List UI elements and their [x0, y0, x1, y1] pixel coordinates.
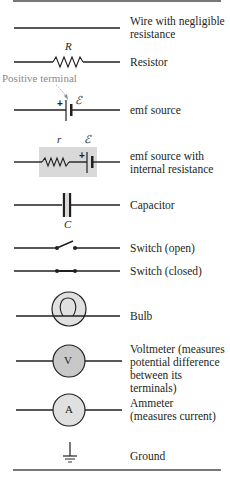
- capacitor-label: Capacitor: [130, 199, 175, 212]
- bottom-rule: [13, 469, 221, 471]
- switch-open-label: Switch (open): [130, 242, 195, 255]
- bulb-symbol: [16, 292, 120, 326]
- internal-resistance-variable: r: [57, 133, 61, 145]
- ground-label: Ground: [130, 450, 165, 463]
- emf-internal-label-line-2: internal resistance: [130, 163, 213, 176]
- emf-internal-label: emf source with internal resistance: [130, 150, 213, 176]
- switch-closed-label: Switch (closed): [130, 265, 202, 278]
- ammeter-label-line-1: Ammeter: [130, 397, 216, 410]
- emf-variable: ℰ: [75, 94, 82, 107]
- resistor-label: Resistor: [130, 56, 168, 69]
- emf-source-label: emf source: [130, 104, 181, 117]
- ground-symbol: [63, 442, 77, 462]
- wire-label-line-1: Wire with negligible: [130, 15, 225, 28]
- emf-source-symbol: [14, 100, 120, 121]
- voltmeter-label-line-2: potential difference: [130, 356, 230, 369]
- switch-closed-symbol: [14, 269, 120, 273]
- bulb-label: Bulb: [130, 310, 152, 323]
- switch-open-symbol: [14, 241, 120, 250]
- wire-label: Wire with negligible resistance: [130, 15, 225, 41]
- voltmeter-label-line-1: Voltmeter (measures: [130, 343, 230, 356]
- ammeter-label: Ammeter (measures current): [130, 397, 216, 423]
- ammeter-glyph: A: [65, 403, 73, 415]
- emf-internal-label-line-1: emf source with: [130, 150, 213, 163]
- resistor-variable: R: [65, 40, 72, 52]
- voltmeter-label: Voltmeter (measures potential difference…: [130, 343, 230, 395]
- wire-label-line-2: resistance: [130, 28, 225, 41]
- voltmeter-glyph: V: [64, 354, 72, 366]
- capacitor-variable: C: [64, 218, 71, 230]
- voltmeter-label-line-3: between its terminals): [130, 369, 230, 395]
- ammeter-label-line-2: (measures current): [130, 410, 216, 423]
- emf-internal-plus-sign: +: [79, 150, 85, 161]
- emf-internal-symbol: [14, 147, 120, 177]
- capacitor-symbol: [14, 193, 120, 217]
- emf-plus-sign: +: [57, 98, 63, 109]
- positive-terminal-annotation: Positive terminal: [2, 72, 77, 84]
- emf-internal-variable: ℰ: [84, 133, 91, 146]
- resistor-symbol: [14, 57, 120, 67]
